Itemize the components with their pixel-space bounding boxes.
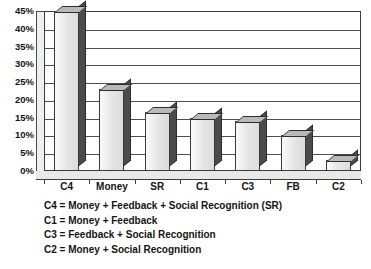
bar-slot: [281, 11, 306, 171]
y-tick-label: 30%: [15, 60, 34, 70]
bar-c3[interactable]: [235, 121, 260, 171]
bar-c4[interactable]: [54, 11, 79, 171]
y-tick-label: 25%: [15, 77, 34, 87]
y-tick-label: 0%: [20, 166, 34, 176]
bar-front-face: [235, 121, 260, 171]
bar-slot: [145, 11, 170, 171]
bar-slot: [190, 11, 215, 171]
x-tick-label-c1: C1: [196, 182, 209, 192]
bar-side-face: [124, 79, 131, 166]
x-tick-label-c3: C3: [241, 182, 254, 192]
y-tick-label: 10%: [15, 131, 34, 141]
annotation-line: C4 = Money + Feedback + Social Recogniti…: [44, 199, 367, 214]
plot-area: [36, 11, 361, 178]
bar-front-face: [190, 118, 215, 171]
bar-slot: [99, 11, 124, 171]
bar-front-face: [281, 135, 306, 171]
x-tick-label-fb: FB: [286, 182, 299, 192]
annotation-line: C3 = Feedback + Social Recognition: [44, 228, 367, 243]
y-axis: 0%5%10%15%20%25%30%35%40%45%: [0, 0, 34, 188]
y-tick-label: 45%: [15, 6, 34, 16]
y-tick-label: 15%: [15, 113, 34, 123]
x-tickmark: [361, 180, 362, 184]
x-tick-label-sr: SR: [150, 182, 164, 192]
bar-slot: [326, 11, 351, 171]
annotation-line: C1 = Money + Feedback: [44, 214, 367, 229]
y-tick-label: 35%: [15, 42, 34, 52]
bars-layer: [44, 11, 361, 180]
x-tick-label-money: Money: [96, 182, 128, 192]
x-tick-label-c4: C4: [60, 182, 73, 192]
bar-c2[interactable]: [326, 160, 351, 171]
x-tick-label-c2: C2: [332, 182, 345, 192]
annotation-line: C2 = Money + Social Recognition: [44, 243, 367, 258]
bar-slot: [54, 11, 79, 171]
bar-chart: 0%5%10%15%20%25%30%35%40%45% C4MoneySRC1…: [0, 0, 371, 269]
y-tick-label: 40%: [15, 24, 34, 34]
bar-front-face: [54, 11, 79, 171]
bar-front-face: [145, 112, 170, 171]
y-tick-label: 5%: [20, 148, 34, 158]
bar-sr[interactable]: [145, 112, 170, 171]
bar-slot: [235, 11, 260, 171]
bar-money[interactable]: [99, 89, 124, 171]
plot-left-wall: [36, 11, 44, 171]
bar-fb[interactable]: [281, 135, 306, 171]
bar-c1[interactable]: [190, 118, 215, 171]
chart-annotations: C4 = Money + Feedback + Social Recogniti…: [44, 199, 367, 257]
bar-front-face: [99, 89, 124, 171]
bar-side-face: [79, 1, 86, 166]
y-tick-label: 20%: [15, 95, 34, 105]
x-axis: C4MoneySRC1C3FBC2: [44, 182, 361, 198]
